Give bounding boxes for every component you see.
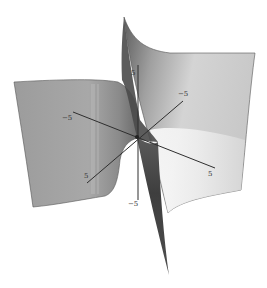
- axis-2-pos-label: 5: [84, 172, 88, 180]
- right-sheet-lower: [150, 128, 245, 213]
- z-axis-top-label: 5: [131, 69, 135, 77]
- left-sheet-band: [97, 84, 99, 194]
- z-axis-bottom-label: −5: [128, 200, 138, 208]
- left-sheet: [14, 80, 138, 207]
- axis-2-neg-label: −5: [178, 90, 188, 98]
- surface-plot: 5 −5 −5 5 5 −5: [0, 0, 267, 288]
- origin-marker: [135, 135, 139, 139]
- axis-1-pos-label: 5: [208, 170, 212, 178]
- axis-1-neg-label: −5: [62, 114, 72, 122]
